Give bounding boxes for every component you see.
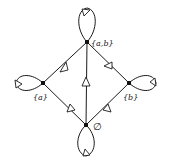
arrow-icon — [82, 77, 90, 86]
node-empty — [84, 123, 88, 127]
label-empty: ∅ — [93, 121, 102, 132]
edge-empty-to-a — [43, 83, 86, 125]
edge-b-to-ab — [87, 42, 129, 83]
arrow-icon — [103, 104, 111, 112]
arrow-icon — [67, 104, 75, 112]
arrow-icon — [82, 9, 90, 16]
node-b — [127, 81, 131, 85]
arrow-icon — [83, 149, 90, 156]
label-a: {a} — [33, 93, 48, 102]
node-a — [41, 81, 45, 85]
arrow-icon — [150, 78, 156, 86]
node-ab — [85, 40, 89, 44]
subset-graph-diagram: {a,b} {a} {b} ∅ — [0, 0, 169, 165]
edge-a-to-ab — [43, 42, 87, 83]
label-b: {b} — [123, 93, 138, 102]
label-ab: {a,b} — [91, 39, 114, 48]
arrow-icon — [15, 80, 22, 88]
